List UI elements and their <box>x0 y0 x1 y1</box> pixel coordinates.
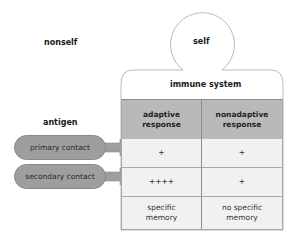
table-cell-memory-nonadaptive: no specificmemory <box>202 197 283 230</box>
table-cell: ++++ <box>121 168 202 197</box>
pill-label: primary contact <box>30 143 90 152</box>
immune-system-label: immune system <box>170 80 241 89</box>
cell-line: no specific <box>222 203 262 212</box>
table-cell-memory-adaptive: specificmemory <box>121 197 202 230</box>
table-cell: + <box>202 168 283 197</box>
secondary-contact-pill: secondary contact <box>14 164 106 189</box>
header-line: nonadaptive <box>216 110 269 119</box>
header-line: response <box>142 120 181 129</box>
cell-line: specific <box>147 203 175 212</box>
cell-line: memory <box>226 213 257 222</box>
cell-line: memory <box>146 213 177 222</box>
column-header-nonadaptive: nonadaptiveresponse <box>202 99 283 139</box>
header-line: adaptive <box>143 110 180 119</box>
table-cell: + <box>121 139 202 168</box>
column-header-adaptive: adaptiveresponse <box>121 99 202 139</box>
primary-contact-pill: primary contact <box>14 135 106 160</box>
antigen-label: antigen <box>43 118 78 127</box>
pill-label: secondary contact <box>25 172 94 181</box>
self-label: self <box>193 37 209 46</box>
header-line: response <box>223 120 262 129</box>
nonself-label: nonself <box>44 38 77 47</box>
table-cell: + <box>202 139 283 168</box>
